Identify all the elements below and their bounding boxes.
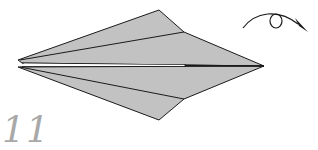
turn-over-arrow-icon <box>243 14 308 32</box>
step-number: 11 <box>2 112 50 148</box>
right-tip-line <box>185 66 264 67</box>
upper-flap <box>18 10 264 66</box>
folded-paper-model <box>18 10 264 120</box>
